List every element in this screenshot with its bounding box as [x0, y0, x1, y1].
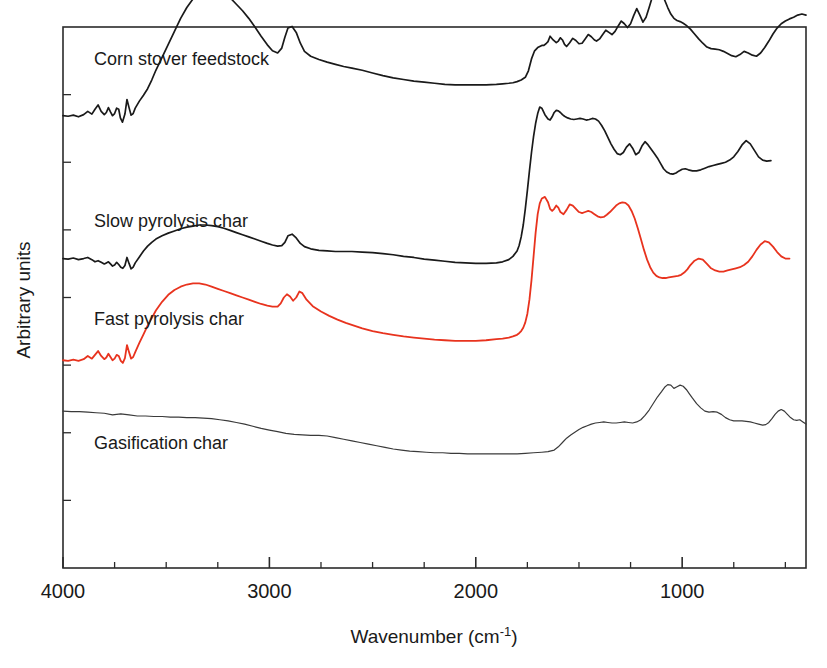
x-axis-title: Wavenumber (cm-1)	[350, 624, 517, 647]
x-tick-label: 3000	[247, 580, 292, 602]
plot-frame	[63, 27, 806, 568]
series-label-3: Gasification char	[94, 433, 228, 453]
x-axis-title-base: Wavenumber (cm	[350, 626, 499, 647]
ftir-spectra-figure: 4000300020001000 Corn stover feedstockSl…	[0, 0, 827, 668]
y-axis-title: Arbitrary units	[13, 241, 34, 358]
spectra-plot: 4000300020001000 Corn stover feedstockSl…	[0, 0, 827, 668]
x-tick-labels: 4000300020001000	[41, 580, 705, 602]
x-axis-title-suffix: )	[511, 626, 517, 647]
x-tick-label: 1000	[660, 580, 705, 602]
series-annotations: Corn stover feedstockSlow pyrolysis char…	[94, 49, 270, 453]
spectrum-curve-1	[63, 107, 771, 269]
x-axis-title-superscript: -1	[500, 624, 512, 639]
series-label-0: Corn stover feedstock	[94, 49, 270, 69]
axis-ticks	[63, 95, 785, 568]
x-tick-label: 2000	[454, 580, 499, 602]
x-tick-label: 4000	[41, 580, 86, 602]
series-label-1: Slow pyrolysis char	[94, 211, 248, 231]
series-label-2: Fast pyrolysis char	[94, 309, 244, 329]
